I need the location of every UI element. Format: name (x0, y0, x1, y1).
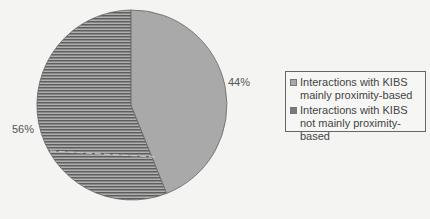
pie-chart: 44% 56% Interactions with KIBS mainly pr… (0, 0, 430, 219)
legend: Interactions with KIBS mainly proximity-… (285, 71, 426, 132)
legend-swatch-proximity (290, 79, 297, 86)
legend-item-proximity: Interactions with KIBS mainly proximity-… (290, 76, 421, 102)
slice-label-44: 44% (228, 76, 250, 88)
legend-label: Interactions with KIBS not mainly proxim… (300, 104, 421, 143)
legend-swatch-not-proximity (290, 107, 297, 114)
slice-label-56: 56% (12, 123, 34, 135)
legend-item-not-proximity: Interactions with KIBS not mainly proxim… (290, 104, 421, 143)
legend-label: Interactions with KIBS mainly proximity-… (300, 76, 421, 102)
